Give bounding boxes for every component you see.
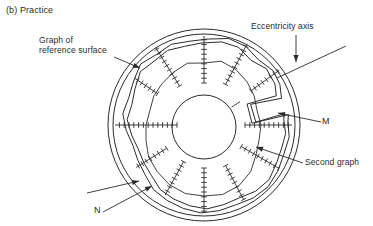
hatched-scale: [154, 48, 182, 88]
figure-practice: (b) Practice Graph of reference surface …: [0, 0, 373, 226]
centre-hole-circle: [172, 95, 236, 159]
label-eccentricity-axis: Eccentricity axis: [251, 21, 314, 31]
second-graph-arrow: [256, 147, 303, 163]
n-arrow-head: [145, 186, 152, 192]
trace-second-graph: [146, 61, 261, 196]
roundness-diagram: [0, 0, 373, 226]
hatched-scale: [223, 164, 246, 201]
eccentricity-axis-line: [277, 46, 346, 78]
hatched-scale: [136, 146, 168, 169]
label-reference-line1: Graph of: [39, 35, 107, 45]
label-m: M: [322, 116, 330, 126]
scale-stub: [232, 102, 240, 107]
label-n: N: [94, 205, 101, 215]
n-arrow: [103, 186, 152, 212]
hatched-scale: [165, 160, 186, 195]
eccentricity-axis-arrow-head: [293, 55, 298, 62]
label-reference-line2: reference surface: [39, 45, 107, 55]
radial-scales: [115, 36, 292, 213]
label-reference-graph: Graph of reference surface: [39, 35, 107, 55]
figure-caption: (b) Practice: [6, 5, 53, 15]
hatched-scale: [201, 168, 207, 213]
label-second-graph: Second graph: [305, 157, 359, 167]
